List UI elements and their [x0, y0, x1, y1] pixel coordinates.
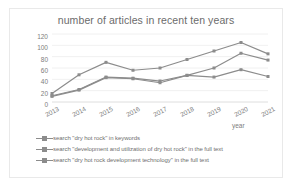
data-point-marker	[267, 52, 270, 55]
data-point-marker	[159, 81, 162, 84]
x-axis-ticks: 201320142015201620172018201920202021	[52, 108, 268, 122]
data-point-marker	[105, 76, 108, 79]
data-point-marker	[267, 75, 270, 78]
data-point-marker	[213, 67, 216, 70]
legend-marker-icon	[36, 134, 53, 142]
y-tick-label: 120	[32, 34, 48, 41]
chart-title: number of articles in recent ten years	[0, 14, 292, 26]
y-tick-label: 0	[32, 102, 48, 109]
y-axis-ticks: 020406080100120	[30, 32, 48, 104]
series-lines	[52, 34, 268, 102]
data-point-marker	[186, 58, 189, 61]
x-axis-label: year	[232, 122, 245, 129]
data-point-marker	[78, 73, 81, 76]
legend-item-2[interactable]: search "dry hot rock development technol…	[36, 155, 276, 165]
legend-label: search "development and utilization of d…	[53, 146, 223, 152]
chart-legend: search "dry hot rock" in keywordssearch …	[36, 133, 276, 166]
data-point-marker	[240, 41, 243, 44]
data-point-marker	[132, 77, 135, 80]
data-point-marker	[267, 59, 270, 62]
data-point-marker	[78, 89, 81, 92]
plot-area	[52, 34, 268, 102]
legend-label: search "dry hot rock" in keywords	[53, 135, 140, 141]
chart-figure: number of articles in recent ten years n…	[0, 0, 292, 187]
data-point-marker	[159, 67, 162, 70]
series-line-1	[52, 53, 268, 95]
data-point-marker	[132, 69, 135, 72]
y-tick-label: 20	[32, 91, 48, 98]
data-point-marker	[51, 95, 54, 98]
data-point-marker	[240, 52, 243, 55]
data-point-marker	[213, 76, 216, 79]
data-point-marker	[240, 68, 243, 71]
legend-marker-icon	[36, 156, 53, 164]
data-point-marker	[213, 50, 216, 53]
y-tick-label: 80	[32, 57, 48, 64]
y-tick-label: 40	[32, 79, 48, 86]
legend-label: search "dry hot rock development technol…	[53, 157, 209, 163]
data-point-marker	[186, 74, 189, 77]
legend-marker-icon	[36, 145, 53, 153]
data-point-marker	[105, 61, 108, 64]
y-tick-label: 60	[32, 68, 48, 75]
y-tick-label: 100	[32, 45, 48, 52]
legend-item-1[interactable]: search "development and utilization of d…	[36, 144, 276, 154]
legend-item-0[interactable]: search "dry hot rock" in keywords	[36, 133, 276, 143]
